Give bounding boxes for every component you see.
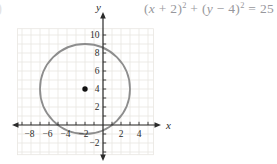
y-axis-tick-label: 2 <box>95 102 100 112</box>
y-axis-label: y <box>95 1 101 13</box>
x-axis-right-arrow <box>155 122 162 128</box>
x-axis-tick-label: −2 <box>78 129 88 139</box>
x-axis-label: x <box>165 119 171 131</box>
y-axis-tick-label: 4 <box>95 84 100 94</box>
x-axis-left-arrow <box>12 122 19 128</box>
y-axis-down-arrow <box>100 155 106 162</box>
y-axis-up-arrow <box>100 12 106 19</box>
x-axis-tick-label: 4 <box>137 129 142 139</box>
x-axis-tick-label: −8 <box>24 129 34 139</box>
circle-center-point <box>82 86 87 91</box>
x-axis-tick-label: −6 <box>42 129 52 139</box>
y-axis-tick-label: 8 <box>95 48 100 58</box>
coordinate-graph: −8−6−4−224108642−2xy <box>0 0 277 164</box>
y-axis-tick-label: 6 <box>95 66 100 76</box>
y-axis-tick-label: −2 <box>89 138 99 148</box>
y-axis-tick-label: 10 <box>90 30 100 40</box>
x-axis-tick-label: 2 <box>119 129 124 139</box>
x-axis-tick-label: −4 <box>60 129 70 139</box>
textbook-figure: ) (x + 2)2 + (y − 4)2 = 25 −8−6−4−224108… <box>0 0 277 164</box>
